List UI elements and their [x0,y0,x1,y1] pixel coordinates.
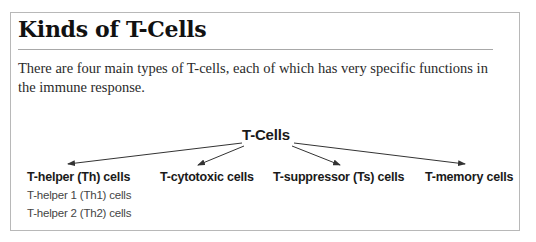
arrow-to-t-cytotoxic [198,146,244,165]
node-t-helper: T-helper (Th) cells [27,170,130,184]
subnode-th2: T-helper 2 (Th2) cells [27,207,131,219]
hierarchy-arrows [0,0,536,242]
subnode-th1: T-helper 1 (Th1) cells [27,189,131,201]
root-node-t-cells: T-Cells [242,126,290,143]
arrow-to-t-helper [68,143,242,164]
node-t-cytotoxic: T-cytotoxic cells [160,170,254,184]
arrow-to-t-suppressor [292,146,340,165]
arrow-to-t-memory [294,143,465,164]
node-t-suppressor: T-suppressor (Ts) cells [273,170,404,184]
node-t-memory: T-memory cells [425,170,513,184]
